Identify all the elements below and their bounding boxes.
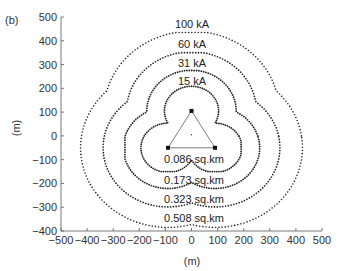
y-tick-label: 300 — [39, 59, 57, 71]
contour-dot — [131, 88, 133, 90]
contour-dot — [127, 218, 129, 220]
contour-dot — [112, 76, 114, 78]
contour-dot — [145, 42, 147, 44]
contour-dot — [281, 199, 283, 201]
contour-dot — [165, 122, 167, 124]
contour-dot — [175, 206, 177, 208]
contour-dot — [139, 46, 141, 48]
contour-dot — [238, 181, 240, 183]
contour-dot — [278, 155, 280, 157]
contour-dot — [125, 135, 127, 137]
contour-dot — [214, 206, 216, 208]
contour-dot — [82, 163, 84, 165]
contour-dot — [279, 144, 281, 146]
contour-dot — [218, 227, 220, 229]
contour-dot — [301, 140, 303, 142]
contour-dot — [302, 143, 304, 145]
contour-dot — [126, 101, 128, 103]
contour-dot — [91, 187, 93, 189]
contour-dot — [143, 135, 145, 137]
contour-dot — [234, 164, 236, 166]
contour-dot — [141, 139, 143, 141]
contour-dot — [154, 169, 156, 171]
contour-dot — [146, 110, 148, 112]
contour-dot — [239, 157, 241, 159]
sensor-marker — [190, 109, 194, 113]
contour-dot — [108, 85, 110, 87]
contour-dot — [212, 74, 214, 76]
contour-dot — [248, 121, 250, 123]
contour-dot — [108, 206, 110, 208]
contour-dot — [129, 126, 131, 128]
contour-dot — [236, 182, 238, 184]
contour-dot — [257, 157, 259, 159]
contour-dot — [113, 180, 115, 182]
contour-dot — [179, 71, 181, 73]
contour-dot — [206, 187, 208, 189]
contour-dot — [173, 206, 175, 208]
area-label: 0.173 sq.km — [164, 174, 224, 186]
contour-dot — [275, 88, 277, 90]
contour-dot — [144, 69, 146, 71]
contour-dot — [216, 34, 218, 36]
contour-dot — [110, 79, 112, 81]
contour-dot — [241, 114, 243, 116]
contour-dot — [292, 111, 294, 113]
contour-dot — [128, 128, 130, 130]
contour-dot — [142, 44, 144, 46]
contour-dot — [159, 58, 161, 60]
contour-dot — [212, 95, 214, 97]
contour-dot — [159, 123, 161, 125]
contour-dot — [292, 183, 294, 185]
contour-dot — [252, 168, 254, 170]
contour-dot — [253, 126, 255, 128]
contour-dot — [161, 226, 163, 228]
contour-dot — [253, 166, 255, 168]
contour-dot — [155, 125, 157, 127]
contour-dot — [240, 139, 242, 141]
contour-dot — [259, 104, 261, 106]
contour-dot — [138, 178, 140, 180]
contour-dot — [272, 119, 274, 121]
contour-dot — [250, 52, 252, 54]
contour-dot — [248, 50, 250, 52]
contour-dot — [148, 98, 150, 100]
contour-dot — [225, 205, 227, 207]
contour-dot — [278, 136, 280, 138]
contour-dot — [294, 114, 296, 116]
contour-dot — [246, 198, 248, 200]
contour-dot — [201, 32, 203, 34]
contour-dot — [238, 159, 240, 161]
x-tick-label: 400 — [287, 234, 305, 246]
contour-dot — [297, 172, 299, 174]
contour-dot — [285, 194, 287, 196]
contour-dot — [137, 199, 139, 201]
contour-dot — [134, 49, 136, 51]
contour-dot — [265, 68, 267, 70]
contour-dot — [99, 197, 101, 199]
contour-dot — [132, 197, 134, 199]
contour-dot — [172, 73, 174, 75]
contour-dot — [291, 108, 293, 110]
contour-dot — [232, 184, 234, 186]
contour-dot — [217, 115, 219, 117]
contour-dot — [234, 225, 236, 227]
contour-dot — [178, 88, 180, 90]
contour-dot — [141, 154, 143, 156]
contour-dot — [251, 124, 253, 126]
contour-dot — [231, 92, 233, 94]
contour-dot — [124, 146, 126, 148]
contour-dot — [263, 66, 265, 68]
contour-dot — [113, 210, 115, 212]
contour-dot — [162, 187, 164, 189]
contour-dot — [222, 206, 224, 208]
contour-dot — [174, 187, 176, 189]
contour-dot — [150, 166, 152, 168]
contour-dot — [188, 70, 190, 72]
contour-dot — [147, 163, 149, 165]
contour-dot — [186, 225, 188, 227]
contour-dot — [184, 166, 186, 168]
contour-dot — [139, 116, 141, 118]
contour-dot — [273, 122, 275, 124]
contour-dot — [135, 80, 137, 82]
